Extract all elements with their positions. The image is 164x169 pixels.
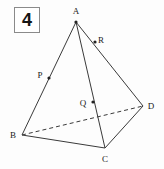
point-dot-A [74, 20, 77, 23]
geometry-figure: 4 A B C D P Q R [0, 0, 164, 169]
point-label-P: P [37, 70, 42, 80]
pyramid-diagram: A B C D P Q R [0, 0, 164, 169]
point-label-R: R [98, 35, 104, 45]
point-label-A: A [73, 6, 80, 16]
point-dot-R [93, 40, 96, 43]
edge-B-C [22, 135, 105, 148]
point-dot-Q [91, 100, 94, 103]
point-label-Q: Q [80, 98, 87, 108]
point-label-B: B [10, 130, 16, 140]
point-label-D: D [148, 101, 155, 111]
point-dot-P [47, 76, 50, 79]
edge-C-D [105, 106, 143, 148]
point-label-C: C [102, 154, 108, 164]
edge-B-D [22, 106, 143, 135]
